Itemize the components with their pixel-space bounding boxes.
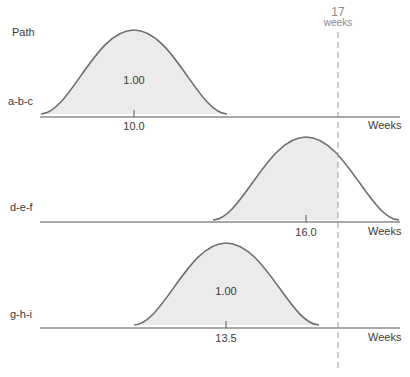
- curve-d-e-f: [40, 137, 400, 222]
- prob-label-g-h-i: 1.00: [215, 285, 236, 297]
- chart-canvas: [0, 0, 410, 377]
- ref-label-bottom: weeks: [324, 17, 352, 28]
- curve-a-b-c: [40, 30, 400, 117]
- axis-label-2: Weeks: [368, 225, 401, 237]
- prob-label-a-b-c: 1.00: [123, 74, 144, 86]
- row-label-a-b-c: a-b-c: [8, 95, 33, 107]
- mean-label-d-e-f: 16.0: [295, 226, 316, 238]
- row-label-d-e-f: d-e-f: [10, 201, 33, 213]
- mean-label-g-h-i: 13.5: [215, 332, 236, 344]
- row-label-g-h-i: g-h-i: [10, 308, 32, 320]
- axis-label-3: Weeks: [368, 331, 401, 343]
- axis-label-1: Weeks: [368, 119, 401, 131]
- mean-label-a-b-c: 10.0: [123, 120, 144, 132]
- path-header: Path: [12, 26, 35, 38]
